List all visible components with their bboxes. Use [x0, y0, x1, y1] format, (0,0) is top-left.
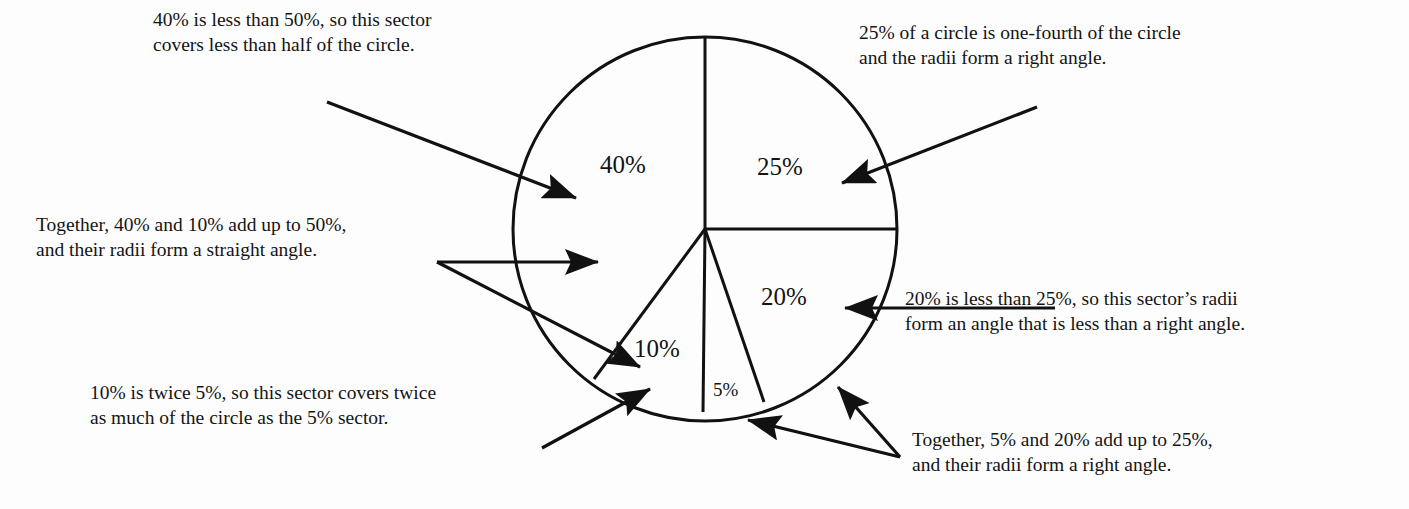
- slice-label-40: 40%: [600, 151, 646, 178]
- note-20-line1: 20% is less than 25%, so this sector’s r…: [905, 286, 1245, 311]
- arrow-40-icon: [327, 102, 576, 198]
- note-straight-line2: and their radii form a straight angle.: [36, 237, 346, 262]
- note-40-line1: 40% is less than 50%, so this sector: [153, 7, 431, 32]
- slice-label-5: 5%: [713, 379, 739, 400]
- note-10-line2: as much of the circle as the 5% sector.: [90, 405, 436, 430]
- arrow-right-5-icon: [748, 420, 900, 457]
- note-25-line2: and the radii form a right angle.: [859, 45, 1181, 70]
- note-25-line1: 25% of a circle is one-fourth of the cir…: [859, 20, 1181, 45]
- radius-bottom: [703, 229, 705, 412]
- slice-label-10: 10%: [634, 335, 680, 362]
- note-right-line1: Together, 5% and 20% add up to 25%,: [912, 427, 1213, 452]
- note-straight-angle: Together, 40% and 10% add up to 50%, and…: [36, 212, 346, 262]
- note-20-line2: form an angle that is less than a right …: [905, 311, 1245, 336]
- slice-label-25: 25%: [757, 153, 803, 180]
- arrow-straight-lower-icon: [437, 262, 640, 367]
- note-straight-line1: Together, 40% and 10% add up to 50%,: [36, 212, 346, 237]
- slice-label-20: 20%: [761, 283, 807, 310]
- arrow-right-20-icon: [838, 387, 900, 457]
- arrow-25-icon: [842, 107, 1037, 183]
- note-20-percent: 20% is less than 25%, so this sector’s r…: [905, 286, 1245, 336]
- note-40-percent: 40% is less than 50%, so this sector cov…: [153, 7, 431, 57]
- radius-lower-right: [705, 229, 764, 402]
- note-25-percent: 25% of a circle is one-fourth of the cir…: [859, 20, 1181, 70]
- note-10-line1: 10% is twice 5%, so this sector covers t…: [90, 380, 436, 405]
- annotation-arrows: [327, 102, 1055, 457]
- arrow-10-icon: [542, 389, 650, 448]
- note-right-line2: and their radii form a right angle.: [912, 452, 1213, 477]
- note-right-angle: Together, 5% and 20% add up to 25%, and …: [912, 427, 1213, 477]
- note-40-line2: covers less than half of the circle.: [153, 32, 431, 57]
- note-10-percent: 10% is twice 5%, so this sector covers t…: [90, 380, 436, 430]
